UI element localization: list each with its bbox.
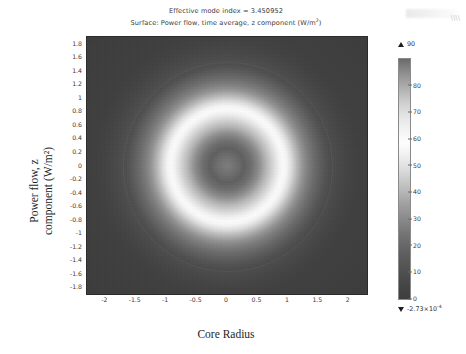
y-tick-label: 1.4 xyxy=(60,66,82,73)
scan-noise-overlay xyxy=(87,37,367,294)
colorbar-min-exponent: -4 xyxy=(437,304,442,309)
y-tick-label: -1.4 xyxy=(60,256,82,263)
colorbar-max-value: 90 xyxy=(407,40,415,48)
surface-title-text: Surface: Power flow, time average, z com… xyxy=(131,19,316,27)
x-tick-label: -0.5 xyxy=(190,296,202,303)
y-axis-title: Power flow, z component (W/m²) xyxy=(27,106,55,276)
effective-mode-index-title: Effective mode index = 3.450952 xyxy=(86,7,366,16)
y-tick-label: -0.4 xyxy=(60,188,82,195)
y-tick-label: -1.8 xyxy=(60,283,82,290)
colorbar-min-value: -2.73×10 xyxy=(407,305,437,313)
y-tick-label: -1 xyxy=(60,229,82,236)
colorbar-tick-label: 80 xyxy=(413,81,421,88)
colorbar-tick-label: 0 xyxy=(413,295,417,302)
x-tick-label: 0.5 xyxy=(252,296,262,303)
y-tick-label: 0.8 xyxy=(60,107,82,114)
x-tick-label: -2 xyxy=(101,296,107,303)
surface-title-suffix: ) xyxy=(319,19,322,27)
y-tick-label: 1.2 xyxy=(60,80,82,87)
triangle-up-icon xyxy=(398,42,404,47)
colorbar-tick-label: 50 xyxy=(413,161,421,168)
colorbar-gradient xyxy=(398,58,411,300)
x-tick-label: 0 xyxy=(224,296,228,303)
y-tick-label: 0.4 xyxy=(60,134,82,141)
y-tick-label: 1 xyxy=(60,93,82,100)
x-tick-label: -1 xyxy=(162,296,168,303)
y-tick-label: 0.2 xyxy=(60,147,82,154)
x-tick-label: 2 xyxy=(346,296,350,303)
colorbar-tick-label: 20 xyxy=(413,241,421,248)
colorbar-legend: 90 80706050403020100 -2.73×10-4 xyxy=(398,36,462,316)
y-tick-label: 0 xyxy=(60,161,82,168)
colorbar-max-marker: 90 xyxy=(398,40,415,48)
y-tick-label: 0.6 xyxy=(60,120,82,127)
surface-description-title: Surface: Power flow, time average, z com… xyxy=(86,16,366,28)
y-axis-title-line1: Power flow, z xyxy=(27,106,41,276)
triangle-down-icon xyxy=(398,307,404,312)
scan-artifact-mark: \\\\ xyxy=(451,14,460,22)
colorbar-tick-label: 30 xyxy=(413,215,421,222)
y-tick-label: 1.6 xyxy=(60,53,82,60)
y-tick-label: -0.8 xyxy=(60,215,82,222)
x-tick-label: 1 xyxy=(285,296,289,303)
y-tick-label: 1.8 xyxy=(60,39,82,46)
mode-plot-figure: \\\\ Effective mode index = 3.450952 Sur… xyxy=(0,0,466,354)
colorbar-min-marker: -2.73×10-4 xyxy=(398,304,442,313)
x-tick-label: 1.5 xyxy=(312,296,322,303)
colorbar-tick-label: 40 xyxy=(413,188,421,195)
x-axis-title: Core Radius xyxy=(86,328,366,340)
y-axis-title-line2: component (W/m²) xyxy=(41,106,55,276)
colorbar-tick-label: 70 xyxy=(413,108,421,115)
y-tick-label: -0.6 xyxy=(60,202,82,209)
plot-title-block: Effective mode index = 3.450952 Surface:… xyxy=(86,7,366,28)
y-tick-label: -1.2 xyxy=(60,242,82,249)
x-tick-label: -1.5 xyxy=(129,296,141,303)
colorbar-tick-label: 10 xyxy=(413,268,421,275)
colorbar-tick-label: 60 xyxy=(413,135,421,142)
surface-plot-area[interactable] xyxy=(86,36,368,295)
y-tick-label: -1.6 xyxy=(60,269,82,276)
y-tick-label: -0.2 xyxy=(60,175,82,182)
